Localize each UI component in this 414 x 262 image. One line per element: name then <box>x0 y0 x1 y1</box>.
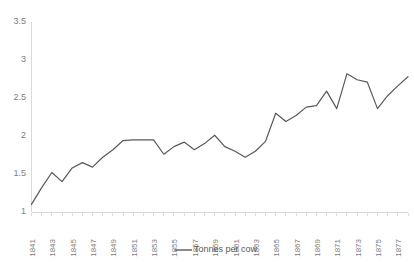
x-axis-tick-label: 1851 <box>130 238 139 256</box>
series-line-tonnes-per-cow <box>32 74 409 205</box>
y-axis-tick-label: 2.5 <box>13 92 26 102</box>
x-axis-tick-label: 1841 <box>28 238 37 256</box>
x-axis-tick-label: 1873 <box>354 238 363 256</box>
x-axis-tick-label: 1871 <box>333 238 342 256</box>
x-axis-tick-label: 1869 <box>313 238 322 256</box>
x-axis-tick-label: 1853 <box>150 238 159 256</box>
x-axis-tick-label: 1865 <box>272 238 281 256</box>
y-axis-tick-labels: 11.522.533.5 <box>13 16 26 216</box>
x-axis-tick-label: 1867 <box>293 238 302 256</box>
x-axis-tick-label: 1855 <box>170 238 179 256</box>
y-axis-tick-label: 2 <box>21 130 26 140</box>
x-axis-tick-label: 1875 <box>374 238 383 256</box>
x-axis-tick-label: 1847 <box>89 238 98 256</box>
y-axis-tick-label: 1 <box>21 206 26 216</box>
chart-legend: Tonnes per cow <box>175 244 258 254</box>
chart-canvas: 11.522.533.5 184118431845184718491851185… <box>0 0 414 262</box>
x-axis-tick-label: 1849 <box>109 238 118 256</box>
y-axis-tick-label: 1.5 <box>13 168 26 178</box>
x-axis-tick-marks <box>32 213 409 217</box>
x-axis-tick-label: 1843 <box>48 238 57 256</box>
x-axis-tick-label: 1877 <box>394 238 403 256</box>
y-axis: 11.522.533.5 <box>13 16 31 216</box>
y-axis-tick-label: 3.5 <box>13 16 26 26</box>
x-axis-tick-label: 1845 <box>69 238 78 256</box>
y-axis-tick-label: 3 <box>21 54 26 64</box>
legend-label: Tonnes per cow <box>194 244 258 254</box>
line-chart: 11.522.533.5 184118431845184718491851185… <box>0 0 414 262</box>
data-series-group <box>32 74 409 205</box>
